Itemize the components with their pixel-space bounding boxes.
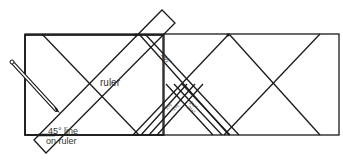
line-45-label: 45° line: [48, 126, 78, 136]
measure-4-5-label: 4½": [159, 52, 173, 66]
corner-dot: [227, 34, 230, 37]
on-ruler-label: on ruler: [46, 136, 77, 146]
ruler-label: ruler: [100, 77, 121, 88]
quilt-cutting-diagram: ruler 45° line on ruler 4½" 2½" 2½" 2½" …: [0, 0, 343, 163]
pencil-icon: [10, 60, 60, 113]
corner-dot: [135, 34, 138, 37]
subcut-line: [145, 34, 239, 135]
